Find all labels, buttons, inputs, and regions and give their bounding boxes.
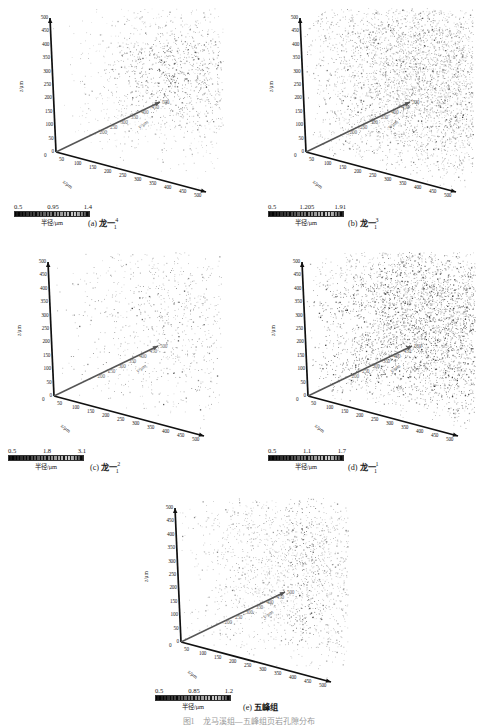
z-tick: 150	[290, 353, 304, 358]
x-tick: 450	[177, 433, 184, 438]
z-tick: 50	[39, 136, 53, 141]
x-tick: 350	[274, 671, 281, 676]
caption-prefix-e: (e)	[243, 703, 252, 712]
y-tick: 400	[393, 354, 400, 359]
x-tick: 300	[134, 177, 141, 182]
y-tick: 500	[412, 100, 419, 105]
y-tick: 400	[391, 110, 398, 115]
z-tick: 250	[289, 326, 303, 331]
caption-prefix-b: (b)	[348, 219, 358, 228]
caption-sup-b: 3	[376, 217, 379, 223]
z-tick: 100	[164, 612, 178, 617]
z-tick: 50	[289, 136, 303, 141]
scatter-points	[57, 252, 222, 428]
caption-b: (b) 龙一31	[348, 218, 377, 229]
x-tick: 300	[386, 421, 393, 426]
panel-a: 0501001502002503003504004505000501001502…	[10, 6, 225, 206]
y-tick: 300	[372, 364, 379, 369]
y-tick: 200	[98, 374, 105, 379]
z-tick: 0	[38, 393, 52, 398]
colorbar-max-d: 1.7	[338, 446, 346, 455]
y-tick: 450	[402, 105, 409, 110]
z-tick: 500	[32, 259, 46, 264]
z-tick: 350	[286, 55, 300, 60]
z-tick: 300	[288, 313, 302, 318]
z-tick: 450	[35, 28, 49, 33]
z-tick: 0	[40, 149, 54, 154]
x-tick: 250	[117, 417, 124, 422]
colorbar-max-e: 1.2	[225, 686, 233, 695]
x-tick: 200	[229, 659, 236, 664]
axes-svg	[260, 6, 475, 206]
x-tick: 0	[169, 643, 171, 648]
colorbar-mid-a: 0.95	[47, 202, 59, 211]
z-tick: 350	[34, 299, 48, 304]
plot-3d-a: 0501001502002503003504004505000501001502…	[10, 6, 225, 206]
colorbar-label-c: 半径/μm	[8, 462, 84, 471]
x-tick: 200	[102, 413, 109, 418]
y-tick: 350	[256, 605, 263, 610]
z-tick: 250	[162, 572, 176, 577]
colorbar-max-c: 3.1	[78, 446, 86, 455]
z-tick: 200	[38, 95, 52, 100]
y-tick: 200	[100, 130, 107, 135]
caption-sub-d: 1	[374, 468, 377, 474]
x-tick: 300	[384, 177, 391, 182]
z-tick: 50	[37, 380, 51, 385]
z-axis-label: z/μm	[144, 571, 149, 582]
z-tick: 400	[160, 532, 174, 537]
z-axis-label: z/μm	[19, 81, 24, 92]
z-tick: 300	[34, 313, 48, 318]
caption-sub-b: 1	[374, 224, 377, 230]
x-tick: 450	[179, 189, 186, 194]
z-tick: 0	[165, 639, 179, 644]
colorbar-max-b: 1.91	[334, 202, 346, 211]
y-tick: 450	[152, 105, 159, 110]
y-tick: 500	[414, 344, 421, 349]
x-tick: 0	[294, 153, 296, 158]
x-tick: 0	[296, 397, 298, 402]
plot-3d-b: 0501001502002503003504004505000501001502…	[260, 6, 475, 206]
caption-sub-c: 1	[116, 468, 119, 474]
z-tick: 300	[36, 69, 50, 74]
plot-3d-d: 0501001502002503003504004505000501001502…	[262, 250, 477, 450]
x-tick: 150	[341, 409, 348, 414]
x-tick: 50	[59, 157, 64, 162]
z-tick: 150	[36, 353, 50, 358]
z-tick: 350	[288, 299, 302, 304]
z-tick: 100	[291, 366, 305, 371]
x-tick: 500	[192, 437, 199, 442]
caption-sup-a: 4	[115, 217, 118, 223]
y-tick: 400	[266, 600, 273, 605]
panel-d: 0501001502002503003504004505000501001502…	[262, 250, 477, 450]
x-tick: 50	[309, 157, 314, 162]
x-tick: 250	[244, 663, 251, 668]
z-tick: 100	[37, 366, 51, 371]
z-tick: 400	[285, 42, 299, 47]
x-tick: 500	[319, 683, 326, 688]
y-tick: 250	[110, 125, 117, 130]
z-tick: 400	[35, 42, 49, 47]
y-tick: 450	[277, 595, 284, 600]
x-tick: 400	[416, 429, 423, 434]
y-tick: 350	[381, 115, 388, 120]
colorbar-gradient-c	[8, 455, 84, 461]
z-tick: 100	[39, 122, 53, 127]
z-tick: 200	[163, 585, 177, 590]
caption-sub-a: 1	[114, 224, 117, 230]
x-tick: 400	[414, 185, 421, 190]
z-tick: 250	[37, 82, 51, 87]
z-tick: 150	[38, 109, 52, 114]
x-tick: 450	[304, 679, 311, 684]
x-tick: 300	[259, 667, 266, 672]
x-tick: 150	[339, 165, 346, 170]
y-tick: 200	[352, 374, 359, 379]
x-tick: 100	[326, 405, 333, 410]
x-tick: 50	[57, 401, 62, 406]
y-tick: 400	[141, 110, 148, 115]
colorbar-min-d: 0.5	[268, 446, 276, 455]
colorbar-gradient-d	[268, 455, 344, 461]
x-tick: 150	[87, 409, 94, 414]
y-tick: 300	[370, 120, 377, 125]
x-tick: 50	[311, 401, 316, 406]
